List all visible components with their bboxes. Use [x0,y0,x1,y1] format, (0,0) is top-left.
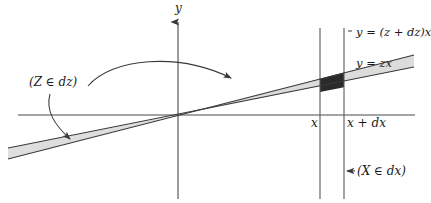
line-label-lower: y = zx [356,58,392,70]
annotation-x-event: (X ∈ dx) [357,165,406,177]
annotation-arrow-to-upper-wedge [88,61,231,86]
x-plus-dx-tick-label: x + dx [347,117,386,129]
annotation-z-event: (Z ∈ dz) [29,76,77,88]
annotation-arrow-to-lower-wedge [49,94,70,139]
line-label-upper: y = (z + dz)x [356,27,431,39]
y-axis-label: y [175,2,182,14]
x-tick-label: x [311,117,318,129]
math-diagram: y y = (z + dz)x y = zx (Z ∈ dz) x x + dx… [0,0,431,203]
